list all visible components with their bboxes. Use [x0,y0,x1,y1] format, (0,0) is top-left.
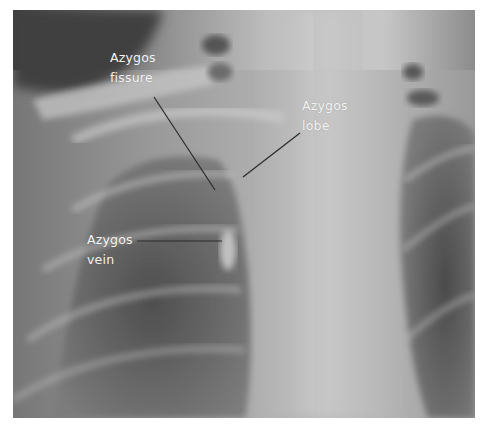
label-line: Azygos [302,96,348,116]
chest-xray-image [13,10,475,418]
label-line: Azygos [110,48,156,68]
label-azygos-fissure: Azygos fissure [110,48,156,88]
label-azygos-lobe: Azygos lobe [302,96,348,136]
label-line: vein [87,250,133,270]
label-line: lobe [302,116,348,136]
label-line: fissure [110,68,156,88]
xray-illustration [13,10,475,418]
label-azygos-vein: Azygos vein [87,230,133,270]
label-line: Azygos [87,230,133,250]
